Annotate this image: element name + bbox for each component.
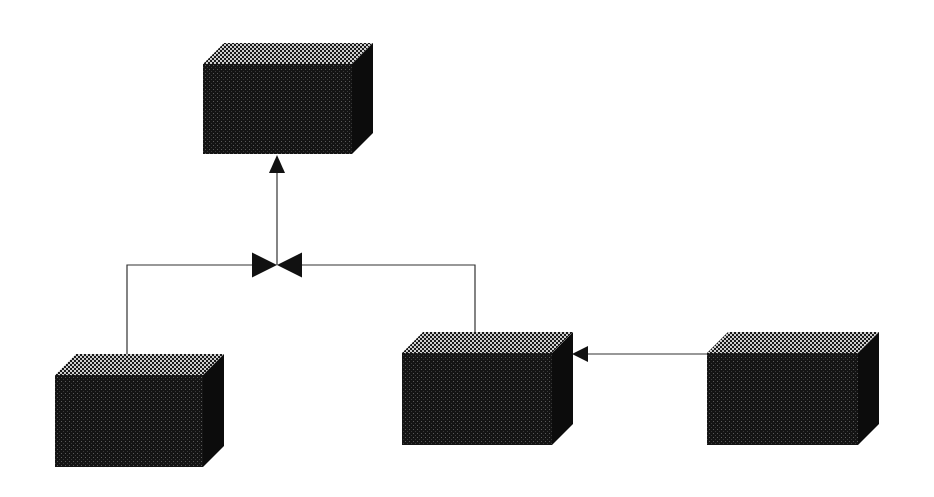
bottom-left-block-front-face — [55, 375, 203, 467]
top-block-front-face — [203, 64, 352, 154]
block-diagram — [0, 0, 934, 497]
right-block-front-face — [707, 353, 858, 445]
arrowhead-up-icon — [269, 155, 285, 173]
right-block-top-face — [707, 332, 879, 353]
arrowhead-left-icon — [572, 346, 588, 362]
arrows-layer — [252, 155, 588, 362]
bottom-left-block[interactable] — [55, 354, 224, 467]
top-block[interactable] — [203, 43, 373, 154]
top-block-top-face — [203, 43, 373, 64]
nodes-layer — [55, 43, 879, 467]
middle-block[interactable] — [402, 332, 573, 445]
middle-block-front-face — [402, 353, 552, 445]
right-block[interactable] — [707, 332, 879, 445]
bottom-left-block-top-face — [55, 354, 224, 375]
middle-block-top-face — [402, 332, 573, 353]
